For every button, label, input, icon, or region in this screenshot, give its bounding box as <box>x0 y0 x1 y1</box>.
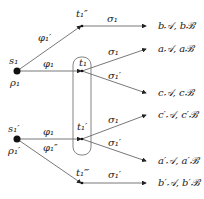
node-s1-payoff: ρ₁ <box>10 78 20 88</box>
node-s1p-payoff: ρ₁′ <box>8 146 20 156</box>
node-t1p-label: t₁′ <box>77 122 87 132</box>
edge-label-s1-t1pp: φ₁′ <box>38 33 51 43</box>
edge-label-s1p-t1ppp: φ₁″ <box>43 143 58 153</box>
outcome-c: c𝒜, cℬ <box>158 88 193 98</box>
edge-label-t1-c: σ₁′ <box>108 71 121 81</box>
node-s1p-label: s₁′ <box>8 124 19 134</box>
edge-label-t1p-ap: σ₁′ <box>108 138 121 148</box>
node-t1-label: t₁ <box>79 58 87 68</box>
outcome-b: b𝒜, bℬ <box>158 21 194 31</box>
edge-label-t1p-cp: σ₁ <box>108 115 119 125</box>
node-t1pp-label: t₁″ <box>76 9 88 19</box>
outcome-bp: b′𝒜, b′ℬ <box>158 178 199 188</box>
edge-label-t1-a: σ₁ <box>108 47 119 57</box>
node-s1-label: s₁ <box>9 56 18 66</box>
game-tree-diagram: s₁ ρ₁ s₁′ ρ₁′ t₁″ t₁ t₁′ t₁‴ φ₁′ φ₁ φ₁ φ… <box>0 0 204 199</box>
edge-label-s1p-t1p: φ₁ <box>43 127 54 137</box>
edge-label-s1-t1: φ₁ <box>43 59 54 69</box>
outcome-a: a𝒜, aℬ <box>158 44 193 54</box>
outcome-cp: c′𝒜, c′ℬ <box>158 110 197 120</box>
edge-label-t1pp-b: σ₁ <box>107 14 118 24</box>
edge-label-t1ppp-bp: σ₁′ <box>108 170 121 180</box>
outcome-ap: a′𝒜, a′ℬ <box>158 156 198 166</box>
node-t1ppp-label: t₁‴ <box>76 168 89 178</box>
